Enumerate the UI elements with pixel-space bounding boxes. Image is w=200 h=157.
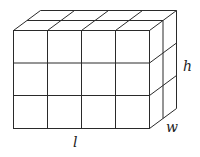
width-label: w	[166, 120, 178, 134]
top-face	[14, 11, 177, 31]
length-label: l	[73, 135, 77, 149]
front-face	[14, 31, 150, 129]
height-label: h	[183, 59, 192, 73]
prism-diagram: h w l	[0, 0, 200, 157]
side-face	[150, 11, 177, 129]
